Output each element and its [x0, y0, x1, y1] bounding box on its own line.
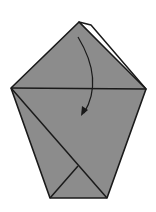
- diagram-canvas: [0, 0, 156, 212]
- origami-diagram: [0, 0, 156, 212]
- horizontal-crease: [11, 88, 146, 89]
- paper-body: [11, 22, 146, 198]
